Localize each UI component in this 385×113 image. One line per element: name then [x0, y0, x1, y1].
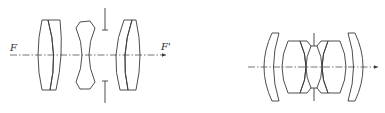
axis-arrow-icon-2 [374, 65, 378, 68]
rear-focus-label: F' [160, 41, 171, 52]
aperture-stop [102, 8, 108, 103]
triplet-diagram: F F' [9, 8, 171, 103]
axis-arrow-icon [162, 53, 166, 56]
double-gauss-diagram [248, 33, 378, 101]
front-focus-label: F [9, 42, 18, 53]
lens-diagrams: F F' [0, 0, 385, 113]
